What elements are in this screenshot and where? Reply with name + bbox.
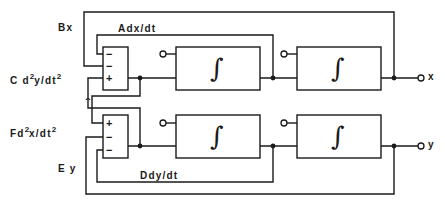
integral-icon: ∫ (210, 123, 224, 149)
summer-y-sign-3: − (106, 145, 112, 156)
output-terminal-y (418, 143, 424, 149)
summer-x-sign-3: + (106, 73, 112, 84)
adx-feedback-wire (97, 35, 273, 78)
output-label-y: y (428, 139, 434, 150)
label-exponent: 2 (52, 125, 56, 134)
ic-terminal (160, 51, 166, 57)
label-text: y/dt (34, 75, 57, 86)
junction-dot (392, 144, 397, 149)
junction-dot (271, 144, 276, 149)
output-terminal-x (418, 75, 424, 81)
label-text: x/dt (29, 128, 52, 139)
label-ey: E y (58, 163, 77, 174)
label-text: Fd (10, 128, 25, 139)
label-bx: Bx (58, 22, 73, 33)
label-ddy-dt: Ddy/dt (140, 170, 178, 181)
output-label-x: x (428, 71, 434, 82)
label-cd2y-dt2: C d2y/dt2 (10, 72, 61, 86)
junction-dot (392, 76, 397, 81)
bx-feedback-wire (84, 12, 394, 78)
integral-icon: ∫ (331, 123, 345, 149)
summer-y-sign-2: − (106, 132, 112, 143)
junction-dot (138, 76, 143, 81)
label-exponent: 2 (57, 72, 61, 81)
summer-x-sign-1: − (106, 49, 112, 60)
ddy-feedback-wire (97, 146, 273, 182)
label-text: C d (10, 75, 30, 86)
integral-icon: ∫ (210, 55, 224, 81)
junction-dot (271, 76, 276, 81)
label-adx-dt: Adx/dt (118, 23, 156, 34)
summer-x-sign-2: − (106, 61, 112, 72)
summer-y-sign-1: + (106, 118, 112, 129)
ic-terminal (281, 51, 287, 57)
integral-icon: ∫ (331, 55, 345, 81)
junction-dot (138, 144, 143, 149)
ic-terminal (281, 120, 287, 126)
ic-terminal (160, 120, 166, 126)
fd2x-cross-wire (92, 78, 140, 123)
label-fd2x-dt2: Fd2x/dt2 (10, 125, 56, 139)
